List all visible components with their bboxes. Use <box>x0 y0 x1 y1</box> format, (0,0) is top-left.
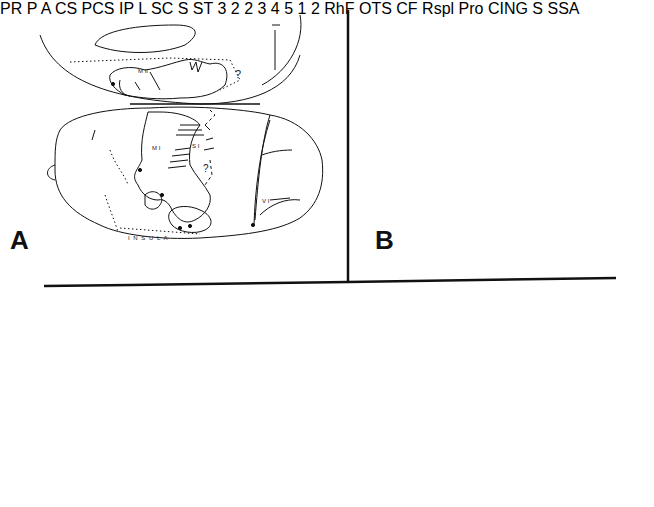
panel-letter-b: B <box>375 225 394 256</box>
label-s1: S I <box>192 143 200 149</box>
panel-dividers <box>44 10 616 286</box>
figure-canvas: M II M I S I V I I N S U L A ? ? <box>0 0 654 507</box>
label-question-upper: ? <box>235 68 241 80</box>
panel-letter-a: A <box>10 225 29 256</box>
label-v1: V I <box>262 198 270 204</box>
panel-a-labels: M II M I S I V I I N S U L A ? ? <box>128 68 270 241</box>
label-insula: I N S U L A <box>128 235 168 241</box>
label-m1: M I <box>152 145 161 151</box>
label-m2: M II <box>138 68 148 74</box>
panel-a-drawing <box>40 15 323 238</box>
label-question-lower: ? <box>203 163 209 174</box>
